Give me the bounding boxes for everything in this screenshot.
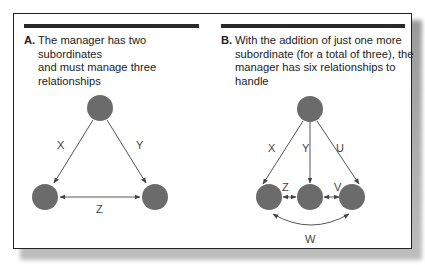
- label-y: Y: [136, 139, 144, 151]
- panel-a-diagram: X Y Z: [32, 95, 168, 215]
- subordinate-node: [32, 184, 58, 210]
- label-v: V: [334, 181, 342, 193]
- relationship-diagrams: X Y Z X Y U Z V W: [0, 0, 425, 265]
- label-z: Z: [282, 181, 289, 193]
- subordinate-node: [256, 184, 282, 210]
- subordinate-node: [142, 184, 168, 210]
- edge-x: [54, 120, 93, 183]
- manager-node: [87, 95, 113, 121]
- label-u: U: [336, 142, 344, 154]
- edge-w: [273, 214, 349, 225]
- label-y: Y: [302, 142, 310, 154]
- subordinate-node: [297, 184, 323, 210]
- label-z: Z: [96, 203, 103, 215]
- edge-y: [107, 120, 146, 183]
- label-x: X: [57, 139, 65, 151]
- subordinate-node: [339, 184, 365, 210]
- label-x: X: [268, 142, 276, 154]
- label-w: W: [305, 233, 316, 245]
- panel-b-diagram: X Y U Z V W: [256, 96, 365, 245]
- manager-node: [297, 96, 323, 122]
